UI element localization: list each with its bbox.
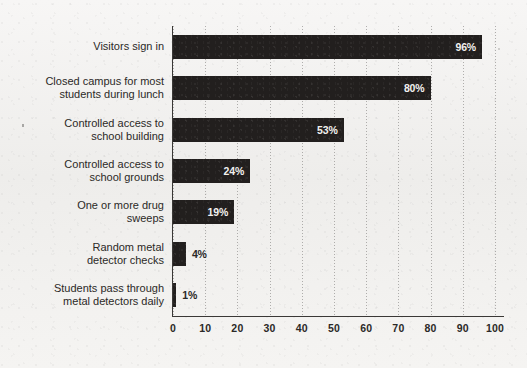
x-tick-label-70: 70 — [392, 322, 404, 334]
category-label-line: Random metal — [6, 241, 164, 254]
category-label-line: Controlled access to — [6, 158, 164, 171]
x-tick-label-0: 0 — [170, 322, 176, 334]
category-labels: Visitors sign inClosed campus for mostst… — [0, 26, 172, 316]
category-label: Students pass throughmetal detectors dai… — [6, 282, 172, 308]
category-label-line: metal detectors daily — [6, 295, 164, 308]
x-axis-line — [172, 316, 504, 317]
bar-row: 4% — [173, 242, 495, 266]
category-label: Closed campus for moststudents during lu… — [6, 75, 172, 101]
category-label-line: students during lunch — [6, 88, 164, 101]
category-label: Controlled access toschool building — [6, 117, 172, 143]
bar-row: 1% — [173, 283, 495, 307]
x-tick-label-60: 60 — [360, 322, 372, 334]
category-label-line: Students pass through — [6, 282, 164, 295]
category-label: Random metaldetector checks — [6, 241, 172, 267]
x-tick-label-30: 30 — [264, 322, 276, 334]
bar-row: 96% — [173, 35, 495, 59]
scan-speck — [498, 48, 500, 50]
bar-value-label: 1% — [182, 283, 197, 307]
category-label: Visitors sign in — [6, 40, 172, 53]
plot-area: 96%80%53%24%19%4%1% — [173, 26, 495, 316]
x-axis-tick-labels: 0102030405060708090100 — [173, 322, 495, 342]
bar-value-label: 24% — [173, 159, 250, 183]
x-tick-label-10: 10 — [199, 322, 211, 334]
x-tick-label-50: 50 — [328, 322, 340, 334]
x-tick-label-40: 40 — [296, 322, 308, 334]
x-tick-label-20: 20 — [231, 322, 243, 334]
bar-row: 19% — [173, 200, 495, 224]
bar-row: 53% — [173, 118, 495, 142]
bar-value-label: 4% — [192, 242, 207, 266]
category-label-line: school grounds — [6, 171, 164, 184]
bar-row: 24% — [173, 159, 495, 183]
bar-value-label: 80% — [173, 76, 431, 100]
category-label-line: sweeps — [6, 212, 164, 225]
category-label: Controlled access toschool grounds — [6, 158, 172, 184]
bar — [173, 283, 176, 307]
chart-figure: 96%80%53%24%19%4%1% Visitors sign inClos… — [0, 0, 527, 368]
bar-row: 80% — [173, 76, 495, 100]
x-tick-label-90: 90 — [457, 322, 469, 334]
category-label-line: Visitors sign in — [6, 40, 164, 53]
bar — [173, 242, 186, 266]
category-label-line: Closed campus for most — [6, 75, 164, 88]
bar-value-label: 96% — [173, 35, 482, 59]
bar-value-label: 53% — [173, 118, 344, 142]
category-label-line: Controlled access to — [6, 117, 164, 130]
x-tick-label-100: 100 — [486, 322, 504, 334]
category-label: One or more drugsweeps — [6, 199, 172, 225]
y-axis-line — [172, 26, 173, 317]
category-label-line: school building — [6, 130, 164, 143]
category-label-line: One or more drug — [6, 199, 164, 212]
category-label-line: detector checks — [6, 254, 164, 267]
x-tick-label-80: 80 — [425, 322, 437, 334]
bar-value-label: 19% — [173, 200, 234, 224]
gridline-100 — [495, 26, 496, 316]
